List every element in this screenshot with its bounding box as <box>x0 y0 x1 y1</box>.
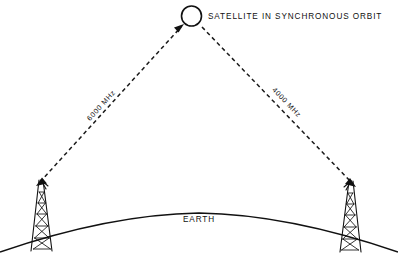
uplink-frequency-label: 6000 MHz <box>85 88 118 122</box>
downlink-signal-path <box>202 27 352 183</box>
uplink-arrowhead-satellite <box>174 24 184 33</box>
uplink-signal-path <box>40 27 181 182</box>
downlink-frequency-label: 4000 MHz <box>270 85 303 119</box>
satellite-label: SATELLITE IN SYNCHRONOUS ORBIT <box>208 12 382 21</box>
right-ground-station-tower <box>340 181 361 252</box>
earth-label: EARTH <box>183 215 215 224</box>
satellite-circle-icon <box>182 6 202 26</box>
diagram-canvas: SATELLITE IN SYNCHRONOUS ORBIT EARTH 600… <box>0 0 398 264</box>
satellite-link-diagram: SATELLITE IN SYNCHRONOUS ORBIT EARTH 600… <box>0 0 398 264</box>
